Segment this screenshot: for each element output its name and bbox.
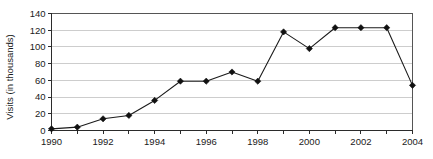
x-tick-label: 2000 bbox=[299, 136, 320, 147]
y-tick-label: 100 bbox=[30, 41, 46, 52]
x-tick-label: 2004 bbox=[402, 136, 423, 147]
y-tick-label: 80 bbox=[35, 58, 46, 69]
x-tick-label: 2002 bbox=[350, 136, 371, 147]
x-tick-label: 1990 bbox=[41, 136, 62, 147]
line-chart: 020406080100120140 199019921994199619982… bbox=[0, 0, 433, 159]
x-tick-label: 1992 bbox=[93, 136, 114, 147]
y-axis-title: Visits (in thousands) bbox=[4, 34, 15, 119]
y-tick-label: 140 bbox=[30, 8, 46, 19]
y-tick-label: 120 bbox=[30, 25, 46, 36]
x-tick-label: 1994 bbox=[144, 136, 165, 147]
y-tick-label: 0 bbox=[40, 125, 45, 136]
y-tick-label: 20 bbox=[35, 108, 46, 119]
y-tick-label: 60 bbox=[35, 75, 46, 86]
x-tick-label: 1998 bbox=[247, 136, 268, 147]
chart-canvas: 020406080100120140 199019921994199619982… bbox=[0, 0, 433, 159]
y-tick-label: 40 bbox=[35, 91, 46, 102]
x-tick-label: 1996 bbox=[196, 136, 217, 147]
